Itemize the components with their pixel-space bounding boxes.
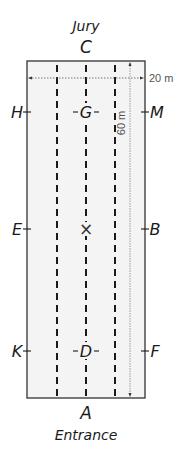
letter-g: G [80, 103, 92, 122]
letter-c: C [80, 37, 92, 57]
letter-b: B [150, 220, 161, 239]
letter-e: E [12, 220, 23, 239]
jury-label: Jury [69, 18, 100, 34]
letter-f: F [150, 342, 160, 361]
center-x-marker-icon: × [79, 219, 93, 239]
width-label: 20 m [149, 72, 173, 84]
dressage-arena-diagram: Jury C A Entrance H E K M B F G D × 20 m… [0, 0, 183, 455]
entrance-label: Entrance [55, 427, 118, 443]
letter-k: K [12, 342, 24, 361]
length-label: 60 m [115, 111, 127, 135]
letter-h: H [11, 103, 23, 122]
letter-d: D [80, 342, 92, 361]
letter-a: A [79, 403, 92, 423]
letter-m: M [150, 103, 164, 122]
